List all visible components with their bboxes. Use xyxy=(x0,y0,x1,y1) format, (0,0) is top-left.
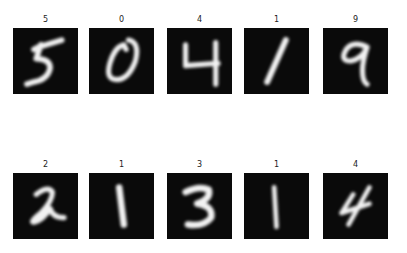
panel-title: 2 xyxy=(13,160,78,170)
digit-image-1 xyxy=(244,28,309,94)
panel-title: 5 xyxy=(13,15,78,25)
digit-panel-10: 4 xyxy=(323,173,388,239)
digit-panel-6: 2 xyxy=(13,173,78,239)
panel-title: 1 xyxy=(89,160,154,170)
digit-image-0 xyxy=(89,28,154,94)
digit-panel-3: 4 xyxy=(167,28,232,94)
panel-title: 1 xyxy=(244,15,309,25)
digit-image-9 xyxy=(323,28,388,94)
digit-panel-7: 1 xyxy=(89,173,154,239)
panel-title: 9 xyxy=(323,15,388,25)
panel-title: 3 xyxy=(167,160,232,170)
digit-image-3 xyxy=(167,173,232,239)
digit-image-4 xyxy=(323,173,388,239)
digit-panel-2: 0 xyxy=(89,28,154,94)
digit-panel-1: 5 xyxy=(13,28,78,94)
digit-image-5 xyxy=(13,28,78,94)
digit-image-1 xyxy=(244,173,309,239)
digit-panel-4: 1 xyxy=(244,28,309,94)
panel-title: 4 xyxy=(167,15,232,25)
digit-panel-8: 3 xyxy=(167,173,232,239)
digit-panel-5: 9 xyxy=(323,28,388,94)
digit-image-4 xyxy=(167,28,232,94)
panel-title: 0 xyxy=(89,15,154,25)
digit-image-1 xyxy=(89,173,154,239)
panel-title: 4 xyxy=(323,160,388,170)
panel-title: 1 xyxy=(244,160,309,170)
digit-panel-9: 1 xyxy=(244,173,309,239)
digit-image-2 xyxy=(13,173,78,239)
